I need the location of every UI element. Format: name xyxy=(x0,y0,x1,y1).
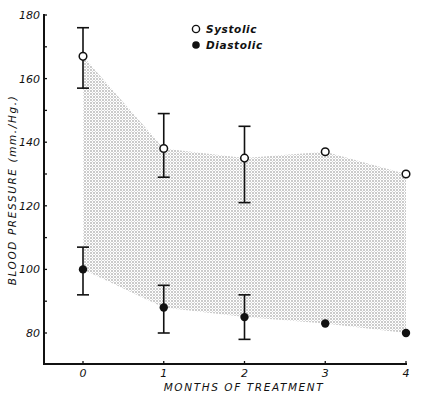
y-tick-label: 80 xyxy=(26,327,40,340)
legend-label-diastolic: Diastolic xyxy=(206,39,263,51)
legend-label-systolic: Systolic xyxy=(206,23,257,35)
open-circle-marker xyxy=(241,154,249,162)
y-axis-title: BLOOD PRESSURE (mm./Hg.) xyxy=(6,95,18,286)
y-tick-label: 100 xyxy=(19,263,40,276)
x-tick-label: 2 xyxy=(241,367,248,380)
open-circle-marker xyxy=(321,148,329,156)
x-tick-label: 4 xyxy=(403,367,410,380)
legend-filled-circle-icon xyxy=(192,41,200,49)
filled-circle-marker xyxy=(321,319,329,327)
filled-circle-marker xyxy=(160,303,168,311)
y-tick-label: 160 xyxy=(19,73,40,86)
filled-circle-marker xyxy=(240,313,248,321)
x-tick-label: 1 xyxy=(160,367,167,380)
x-tick-label: 3 xyxy=(322,367,329,380)
open-circle-marker xyxy=(79,53,87,61)
y-tick-label: 120 xyxy=(19,200,40,213)
open-circle-marker xyxy=(160,145,168,153)
filled-circle-marker xyxy=(79,265,87,273)
legend-open-circle-icon xyxy=(192,25,199,32)
y-tick-label: 180 xyxy=(19,9,40,22)
open-circle-marker xyxy=(402,170,410,178)
legend: Systolic Diastolic xyxy=(192,23,263,51)
blood-pressure-chart: 8010012014016018001234 Systolic Diastoli… xyxy=(0,0,421,399)
y-tick-label: 140 xyxy=(19,136,40,149)
filled-circle-marker xyxy=(402,329,410,337)
x-tick-label: 0 xyxy=(80,367,87,380)
x-axis-title: MONTHS OF TREATMENT xyxy=(164,381,325,393)
